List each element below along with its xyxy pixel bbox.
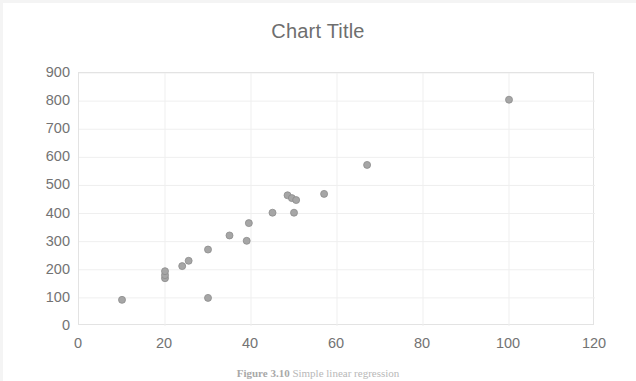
data-point [245,220,252,227]
y-axis-tick-label: 700 [10,120,70,136]
figure-container: Chart Title 0100200300400500600700800900… [0,0,636,381]
y-axis-tick-label: 300 [10,233,70,249]
data-point [321,190,328,197]
data-point [205,294,212,301]
data-point [269,209,276,216]
y-axis-tick-label: 0 [10,317,70,333]
y-axis-tick-label: 800 [10,92,70,108]
y-axis-tick-label: 100 [10,289,70,305]
scatter-plot-svg [79,73,595,326]
data-point [243,237,250,244]
data-point [293,197,300,204]
x-axis-tick-label: 40 [220,335,280,351]
data-point [119,296,126,303]
y-axis-tick-label: 400 [10,205,70,221]
plot-area [78,72,594,325]
data-point [506,96,513,103]
x-axis-tick-label: 0 [48,335,108,351]
figure-caption: Figure 3.10 Simple linear regression [0,367,636,381]
x-axis-tick-label: 100 [478,335,538,351]
figure-caption-number: Figure 3.10 [237,367,290,379]
x-axis-tick-label: 80 [392,335,452,351]
x-axis-tick-label: 20 [134,335,194,351]
data-point [364,161,371,168]
y-axis-tick-label: 200 [10,261,70,277]
x-axis-tick-label: 60 [306,335,366,351]
data-point [226,232,233,239]
figure-caption-text: Simple linear regression [292,367,399,379]
page-artifact-left [0,0,3,381]
chart-title: Chart Title [0,20,636,43]
vertical-gridlines [165,73,509,326]
data-point [205,246,212,253]
x-axis-tick-label: 120 [564,335,624,351]
y-axis-tick-label: 500 [10,176,70,192]
data-point [291,209,298,216]
data-point-markers [119,96,513,303]
y-axis-tick-label: 600 [10,148,70,164]
y-axis-tick-label: 900 [10,64,70,80]
data-point [179,263,186,270]
data-point [185,257,192,264]
page-artifact-top [0,0,636,3]
data-point [162,268,169,275]
